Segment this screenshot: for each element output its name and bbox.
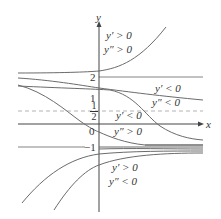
curve-crossing-half-right xyxy=(18,86,203,140)
y-axis-label: y xyxy=(96,12,101,23)
half-numerator: 1 xyxy=(90,101,98,111)
curve-above-2 xyxy=(18,27,166,73)
tick-label-0: 0 xyxy=(89,126,95,137)
region-mid-upper-ydoubleprime: y″ < 0 xyxy=(152,97,180,108)
tick-label-2: 2 xyxy=(90,72,96,83)
region-mid-upper-yprime: y′ < 0 xyxy=(155,83,181,94)
x-axis-arrow-icon xyxy=(198,122,204,127)
region-below-minus1-yprime: y′ > 0 xyxy=(112,162,138,173)
region-below-minus1-ydoubleprime: y″ < 0 xyxy=(109,176,137,187)
tick-label-minus1: −1 xyxy=(84,142,96,153)
region-mid-lower-yprime: y′ < 0 xyxy=(116,110,142,121)
region-mid-lower-ydoubleprime: y″ > 0 xyxy=(114,126,142,137)
half-denominator: 2 xyxy=(90,112,98,122)
region-above-2-ydoubleprime: y″ > 0 xyxy=(104,44,132,55)
x-axis-label: x xyxy=(206,119,211,130)
curve-crossing-half-left xyxy=(18,85,203,145)
tick-label-half: 1 2 xyxy=(90,101,98,122)
region-above-2-yprime: y′ > 0 xyxy=(106,30,132,41)
